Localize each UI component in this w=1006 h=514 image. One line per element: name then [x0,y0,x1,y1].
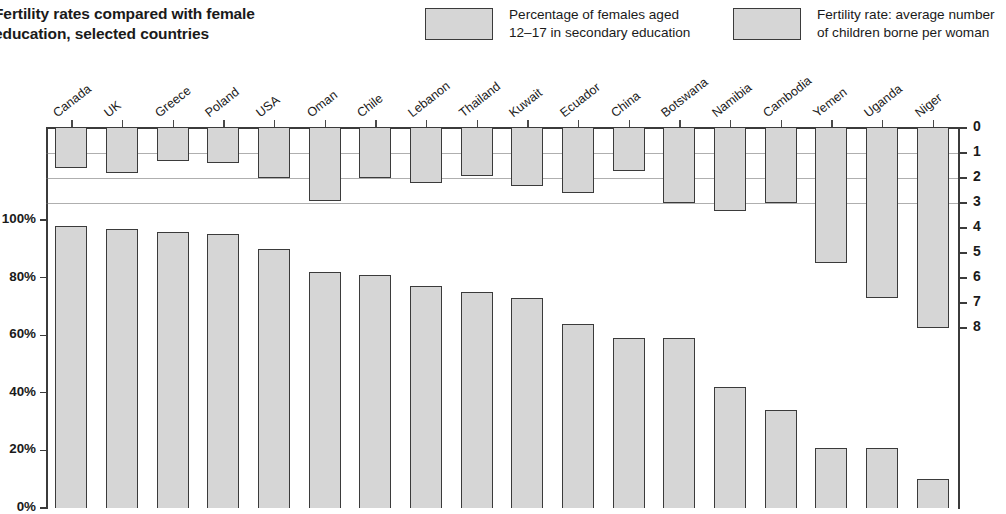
country-label-uk: UK [101,98,123,120]
top-tick-greece [173,120,174,127]
left-axis-label-0: 0% [17,499,36,514]
country-label-kuwait: Kuwait [507,86,545,120]
country-label-poland: Poland [203,85,243,120]
percentage-bar-yemen [815,448,847,508]
left-axis-label-40: 40% [9,384,36,399]
fertility-bar-ecuador [562,128,594,193]
right-axis-tick-2 [958,177,967,179]
fertility-bar-yemen [815,128,847,263]
top-tick-ecuador [578,120,579,127]
percentage-bar-china [613,338,645,508]
country-label-greece: Greece [152,84,193,120]
percentage-bar-oman [309,272,341,508]
right-axis-tick-6 [958,277,967,279]
percentage-bar-kuwait [511,298,543,508]
fertility-bar-chile [359,128,391,178]
fertility-bar-uganda [866,128,898,298]
percentage-bar-namibia [714,387,746,508]
fertility-bar-china [613,128,645,171]
percentage-bar-ecuador [562,324,594,508]
right-axis-label-6: 6 [973,268,981,284]
top-tick-canada [71,120,72,127]
country-label-botswana: Botswana [659,75,711,120]
top-tick-oman [325,120,326,127]
right-axis-label-7: 7 [973,293,981,309]
country-label-yemen: Yemen [811,85,850,120]
country-label-lebanon: Lebanon [405,79,452,120]
country-label-niger: Niger [912,90,944,120]
right-axis-tick-1 [958,152,967,154]
percentage-bar-cambodia [765,410,797,508]
fertility-bar-lebanon [410,128,442,183]
country-label-uganda: Uganda [861,82,904,120]
right-axis-label-4: 4 [973,218,981,234]
left-axis-label-100: 100% [2,211,36,226]
fertility-bar-canada [55,128,87,168]
country-label-ecuador: Ecuador [557,80,603,120]
percentage-bar-poland [207,234,239,508]
country-label-chile: Chile [355,91,386,120]
axis-right-rail [958,127,960,509]
top-tick-uk [122,120,123,127]
percentage-bar-botswana [663,338,695,508]
top-tick-uganda [882,120,883,127]
top-tick-niger [933,120,934,127]
fertility-bar-kuwait [511,128,543,186]
right-axis-label-2: 2 [973,168,981,184]
top-tick-chile [375,120,376,127]
percentage-bar-uk [106,229,138,508]
country-label-thailand: Thailand [456,79,503,120]
left-axis-label-80: 80% [9,269,36,284]
left-axis-tick-80 [40,277,48,278]
right-axis-label-3: 3 [973,193,981,209]
top-tick-lebanon [426,120,427,127]
percentage-bar-thailand [461,292,493,508]
top-tick-thailand [477,120,478,127]
fertility-bar-niger [917,128,949,328]
top-tick-botswana [679,120,680,127]
top-tick-yemen [831,120,832,127]
right-axis-label-1: 1 [973,143,981,159]
left-axis-label-60: 60% [9,326,36,341]
fertility-bar-usa [258,128,290,178]
percentage-bar-usa [258,249,290,508]
country-label-namibia: Namibia [709,81,754,120]
country-label-usa: USA [253,93,282,120]
top-tick-usa [274,120,275,127]
fertility-bar-uk [106,128,138,173]
country-label-oman: Oman [304,88,340,120]
right-axis-tick-7 [958,302,967,304]
percentage-bar-greece [157,232,189,508]
fertility-bar-cambodia [765,128,797,203]
right-axis-label-5: 5 [973,243,981,259]
country-label-china: China [608,89,643,120]
right-axis-tick-8 [958,327,967,329]
country-label-canada: Canada [51,82,94,120]
left-axis-label-20: 20% [9,441,36,456]
left-axis-tick-0 [40,507,48,508]
percentage-bar-lebanon [410,286,442,508]
right-axis-tick-0 [958,127,967,129]
top-tick-china [629,120,630,127]
percentage-bar-niger [917,479,949,508]
right-axis-label-8: 8 [973,318,981,334]
left-axis-tick-100 [40,219,48,220]
fertility-bar-oman [309,128,341,201]
fertility-bar-thailand [461,128,493,176]
left-axis-tick-20 [40,450,48,451]
top-tick-poland [223,120,224,127]
right-axis-tick-5 [958,252,967,254]
top-tick-cambodia [781,120,782,127]
fertility-bar-greece [157,128,189,161]
left-axis-tick-60 [40,335,48,336]
right-axis-tick-3 [958,202,967,204]
percentage-bar-uganda [866,448,898,508]
top-tick-kuwait [527,120,528,127]
percentage-bar-canada [55,226,87,508]
left-axis-tick-40 [40,392,48,393]
fertility-bar-namibia [714,128,746,211]
right-axis-tick-4 [958,227,967,229]
right-axis-label-0: 0 [973,118,981,134]
axis-left-rail [46,127,48,509]
